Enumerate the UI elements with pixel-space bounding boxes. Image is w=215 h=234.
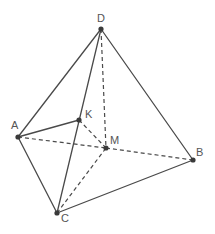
tetrahedron-diagram: D A K M B C bbox=[0, 0, 215, 234]
hidden-edge-MB bbox=[106, 148, 193, 160]
point-M bbox=[103, 145, 108, 150]
label-M: M bbox=[110, 134, 119, 146]
solid-edges bbox=[18, 29, 193, 213]
hidden-edge-KM bbox=[79, 120, 106, 148]
point-K bbox=[76, 117, 81, 122]
label-A: A bbox=[11, 119, 19, 131]
edge-AC bbox=[18, 137, 57, 213]
label-B: B bbox=[196, 146, 203, 158]
edge-AK bbox=[18, 120, 79, 137]
points bbox=[15, 26, 195, 215]
label-D: D bbox=[97, 12, 105, 24]
label-C: C bbox=[61, 212, 69, 224]
point-B bbox=[190, 157, 195, 162]
label-K: K bbox=[85, 108, 93, 120]
edge-CB bbox=[57, 160, 193, 213]
dashed-edges bbox=[18, 29, 193, 213]
point-C bbox=[54, 210, 59, 215]
point-D bbox=[98, 26, 103, 31]
hidden-edge-AM bbox=[18, 137, 106, 148]
labels: D A K M B C bbox=[11, 12, 203, 224]
hidden-edge-DM bbox=[101, 29, 106, 148]
point-A bbox=[15, 134, 20, 139]
